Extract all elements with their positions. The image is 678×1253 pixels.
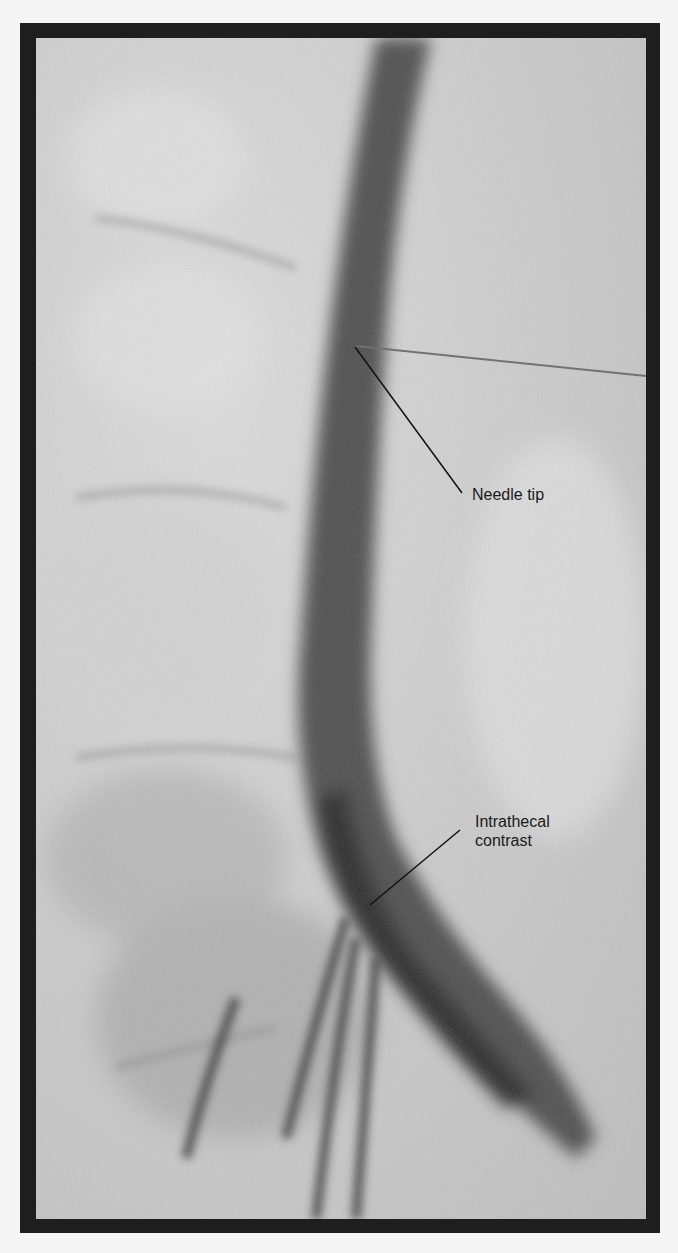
contrast-label-line2: contrast xyxy=(475,831,550,850)
annotation-leader-lines xyxy=(0,0,678,1253)
contrast-leader xyxy=(370,830,460,905)
needle-tip-label: Needle tip xyxy=(472,485,544,504)
contrast-label-line1: Intrathecal xyxy=(475,812,550,831)
needle-tip-leader xyxy=(355,347,462,493)
intrathecal-contrast-label: Intrathecal contrast xyxy=(475,812,550,850)
